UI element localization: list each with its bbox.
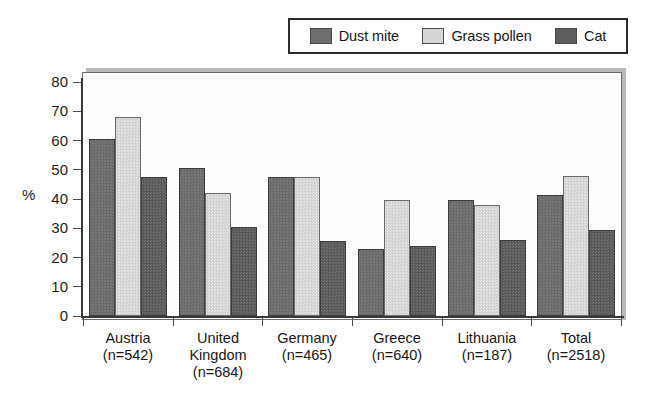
y-axis-tick — [73, 82, 81, 83]
x-axis-category-line: Total — [521, 330, 631, 347]
y-axis-tick-label: 0 — [34, 308, 68, 323]
y-axis-tick — [73, 316, 81, 317]
y-axis-tick-label: 70 — [34, 103, 68, 118]
x-axis-tick — [621, 318, 622, 326]
legend-label-grass-pollen: Grass pollen — [451, 28, 531, 44]
chart-legend: Dust mite Grass pollen Cat — [288, 18, 628, 54]
x-axis-tick — [442, 318, 443, 326]
x-axis-tick — [531, 318, 532, 326]
x-axis-tick — [352, 318, 353, 326]
legend-label-cat: Cat — [584, 28, 606, 44]
y-axis-tick-label: 80 — [34, 74, 68, 89]
y-axis-tick — [73, 169, 81, 170]
legend-swatch-grass-pollen — [422, 28, 444, 44]
x-axis-tick — [173, 318, 174, 326]
legend-item-dust-mite: Dust mite — [310, 28, 399, 44]
legend-swatch-dust-mite — [310, 28, 332, 44]
legend-swatch-cat — [555, 28, 577, 44]
y-axis-tick-label: 60 — [34, 133, 68, 148]
x-axis-tick — [83, 318, 84, 326]
y-axis-tick — [73, 140, 81, 141]
y-axis-tick — [73, 257, 81, 258]
y-axis-tick — [73, 228, 81, 229]
x-axis-category-line: (n=2518) — [521, 347, 631, 364]
y-axis-line — [81, 78, 83, 318]
legend-label-dust-mite: Dust mite — [339, 28, 399, 44]
y-axis-tick-label: 30 — [34, 220, 68, 235]
plot-area — [82, 72, 622, 320]
x-axis-category-line: (n=684) — [163, 364, 273, 381]
y-axis-tick-label: 50 — [34, 162, 68, 177]
y-axis-tick — [73, 111, 81, 112]
y-axis-tick — [73, 286, 81, 287]
y-axis-tick-label: 10 — [34, 279, 68, 294]
y-axis-tick — [73, 199, 81, 200]
legend-item-cat: Cat — [555, 28, 606, 44]
y-axis-tick-label: 40 — [34, 191, 68, 206]
y-axis-tick-label: 20 — [34, 250, 68, 265]
legend-item-grass-pollen: Grass pollen — [422, 28, 531, 44]
x-axis-category-label: Total(n=2518) — [521, 330, 631, 364]
x-axis-tick — [262, 318, 263, 326]
